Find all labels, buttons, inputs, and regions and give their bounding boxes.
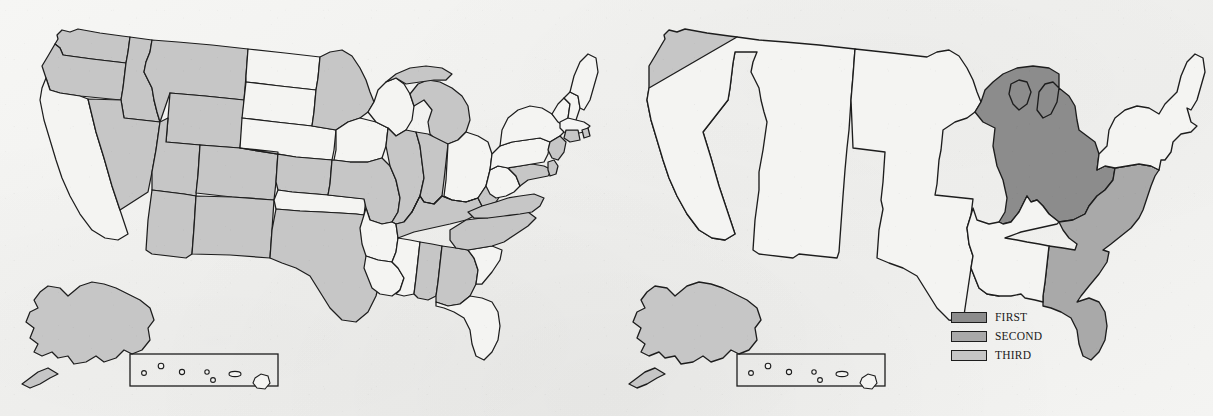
inset-alaska (22, 282, 154, 388)
left-map-svg (0, 0, 606, 416)
legend-label-second: SECOND (995, 331, 1042, 343)
legend-item-third: THIRD (951, 347, 1071, 364)
hawaii-isle-1 (142, 371, 147, 376)
state-delaware (548, 160, 558, 176)
state-minnesota (312, 50, 374, 130)
hawaii-isle-4 (205, 370, 209, 374)
left-map-panel (0, 0, 606, 416)
legend-item-second: SECOND (951, 328, 1071, 345)
state-rhodeisland (582, 128, 590, 138)
hawaii-isle-2 (158, 363, 164, 369)
right-map-svg (607, 0, 1213, 416)
hawaii-isle-1 (749, 371, 754, 376)
figure-canvas: FIRST SECOND THIRD (0, 0, 1213, 416)
state-newmexico (192, 196, 274, 258)
hawaii-isle-3 (179, 369, 184, 374)
state-colorado (196, 145, 278, 200)
inset-alaska (629, 282, 761, 388)
hawaii-isle-bigisland (253, 374, 270, 389)
legend-swatch-first (951, 312, 987, 323)
state-wyoming (166, 93, 244, 148)
state-connecticut (564, 130, 580, 142)
right-map-panel (607, 0, 1213, 416)
legend-swatch-second (951, 331, 987, 342)
hawaii-isle-6 (836, 371, 848, 376)
legend-item-first: FIRST (951, 309, 1071, 326)
hawaii-isle-2 (765, 363, 771, 369)
region-northeast-unranked (1097, 54, 1205, 170)
legend-swatch-third (951, 350, 987, 361)
state-arizona (146, 190, 196, 258)
hawaii-isle-3 (786, 369, 791, 374)
hawaii-isle-4 (812, 370, 816, 374)
state-florida (436, 296, 500, 360)
legend-label-third: THIRD (995, 350, 1031, 362)
hawaii-isle-5 (818, 378, 823, 383)
legend-label-first: FIRST (995, 312, 1027, 324)
hawaii-isle-bigisland (860, 374, 877, 389)
map-legend: FIRST SECOND THIRD (951, 309, 1071, 366)
hawaii-isle-5 (211, 378, 216, 383)
hawaii-isle-6 (229, 371, 241, 376)
